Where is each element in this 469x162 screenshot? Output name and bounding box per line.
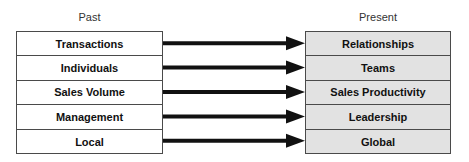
present-list: Relationships Teams Sales Productivity L… — [305, 31, 451, 154]
present-item-sales-productivity: Sales Productivity — [306, 81, 450, 105]
arrow-head-local — [286, 134, 305, 148]
present-item-global: Global — [306, 130, 450, 154]
arrow-head-individuals — [286, 61, 305, 75]
present-item-teams: Teams — [306, 56, 450, 80]
arrow-head-management — [286, 109, 305, 123]
arrow-head-sales-volume — [286, 85, 305, 99]
present-item-relationships: Relationships — [306, 32, 450, 56]
arrow-head-transactions — [286, 36, 305, 50]
present-item-leadership: Leadership — [306, 105, 450, 129]
